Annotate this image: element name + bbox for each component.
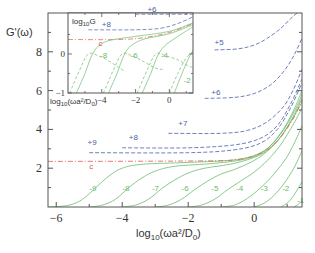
inset-x-tick-label: −2: [131, 95, 141, 105]
curve--6: [155, 102, 302, 207]
curve-label: -1: [297, 196, 305, 205]
inset-curve-label: -4: [161, 51, 169, 60]
chart-figure: -9-8-7-6-5-4-3-2-1c+9+8+7+6+5 −6−4−20246…: [0, 0, 315, 253]
curve-label: c: [89, 162, 93, 171]
curve-+5: [215, 13, 298, 50]
inset-curve-label: c: [98, 39, 102, 48]
curve-label: -2: [282, 184, 290, 193]
x-tick-label: 0: [251, 211, 257, 225]
curve-label: -5: [211, 184, 219, 193]
x-axis-title: log10(ωa²/D0): [136, 227, 201, 242]
x-tick-label: −6: [50, 211, 63, 225]
curve--3: [254, 151, 302, 207]
curve-label: +6: [211, 88, 221, 97]
curve-label: -9: [89, 184, 97, 193]
curve-c: [48, 100, 302, 161]
y-axis-title: G'(ω): [6, 26, 33, 38]
curve--8: [89, 95, 302, 208]
y-tick-label: 8: [36, 45, 42, 59]
curve-label: -6: [182, 184, 190, 193]
inset-curve-label: +6: [147, 5, 157, 14]
inset-curve-label: +8: [102, 20, 112, 29]
inset-x-tick-label: −4: [97, 95, 107, 105]
x-tick-label: −4: [116, 211, 129, 225]
y-tick-label: 2: [36, 161, 42, 175]
curve-label: -8: [122, 184, 130, 193]
x-tick-label: −2: [182, 211, 195, 225]
inset-y-tick-label: 0: [61, 49, 66, 59]
curve-label: +9: [88, 138, 98, 147]
inset-x-tick-label: 0: [167, 95, 172, 105]
inset-curve-label: -2: [184, 76, 192, 85]
inset-curve-label: -6: [131, 51, 139, 60]
y-tick-label: 4: [36, 122, 42, 136]
curve-label: +7: [178, 119, 188, 128]
curve-label: -4: [236, 184, 244, 193]
curve-label: +5: [215, 38, 225, 47]
curve-label: -7: [152, 184, 160, 193]
inset-curve-label: -8: [100, 51, 108, 60]
curve-label: +8: [129, 133, 139, 142]
curve-label: -3: [261, 184, 269, 193]
inset-x-axis-title: log10(ωa²/D0): [50, 97, 98, 107]
y-tick-label: 6: [36, 84, 42, 98]
